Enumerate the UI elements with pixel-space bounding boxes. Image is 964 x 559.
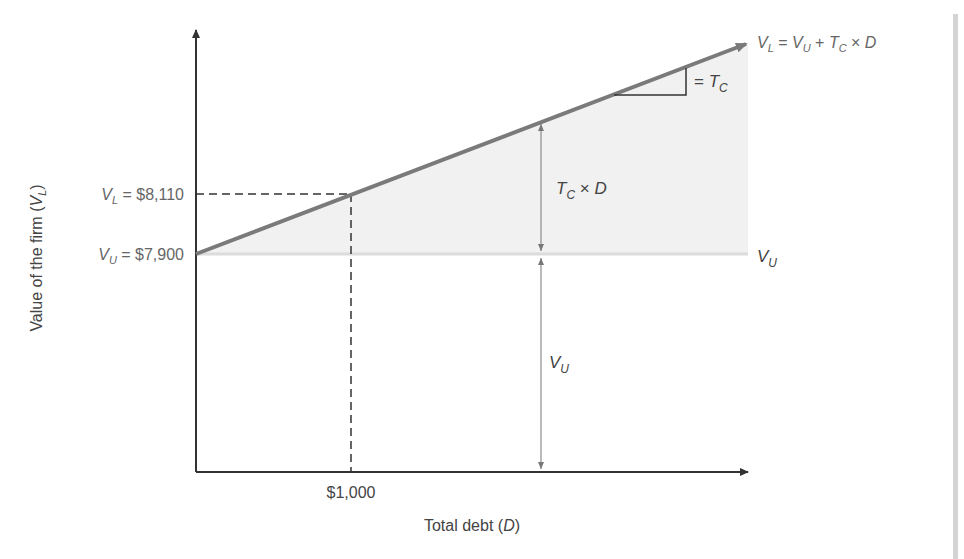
x-tick-1000: $1,000 xyxy=(327,484,376,501)
vu-right-label: VU xyxy=(757,247,777,270)
y-axis-title: Value of the firm (VL) xyxy=(28,184,48,331)
page-edge-divider xyxy=(953,14,958,559)
chart-canvas: VL = VU + TC × D = TC TC × D VU VU VL = … xyxy=(0,0,964,559)
x-axis-title: Total debt (D) xyxy=(424,517,520,534)
y-tick-vu: VU = $7,900 xyxy=(98,246,184,266)
vu-mid-label: VU xyxy=(549,353,569,376)
y-tick-vl: VL = $8,110 xyxy=(101,186,184,206)
vl-formula-label: VL = VU + TC × D xyxy=(757,34,877,54)
